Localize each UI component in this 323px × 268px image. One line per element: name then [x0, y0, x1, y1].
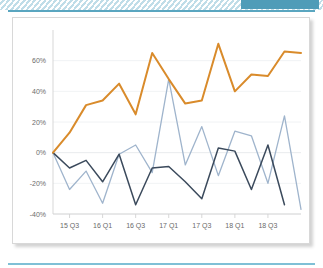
- y-tick-label: 40%: [32, 88, 46, 95]
- y-tick-label: 60%: [32, 57, 46, 64]
- line-chart: -40%-20%0%20%40%60% 15 Q316 Q116 Q317 Q1…: [13, 18, 309, 243]
- y-axis-tick-labels: -40%-20%0%20%40%60%: [30, 57, 46, 217]
- x-tick-label: 16 Q1: [93, 222, 112, 230]
- chart-card: -40%-20%0%20%40%60% 15 Q316 Q116 Q317 Q1…: [12, 17, 310, 244]
- x-axis-tick-labels: 15 Q316 Q116 Q317 Q117 Q318 Q118 Q3: [60, 222, 278, 230]
- decorative-top-band: [0, 0, 323, 10]
- y-tick-label: -40%: [30, 211, 46, 218]
- orange-series: [53, 44, 301, 153]
- x-tick-label: 16 Q3: [126, 222, 145, 230]
- chart-plot-area: -40%-20%0%20%40%60% 15 Q316 Q116 Q317 Q1…: [13, 18, 309, 243]
- data-series: [53, 44, 301, 210]
- y-tick-label: 0%: [36, 149, 46, 156]
- bottom-divider-rule: [8, 263, 315, 265]
- light-blue-series: [53, 79, 301, 209]
- x-tick-label: 18 Q1: [225, 222, 244, 230]
- y-tick-label: 20%: [32, 119, 46, 126]
- x-tick-label: 15 Q3: [60, 222, 79, 230]
- x-tick-label: 17 Q1: [159, 222, 178, 230]
- x-tick-label: 17 Q3: [192, 222, 211, 230]
- teal-header-block: [241, 0, 319, 9]
- top-divider-rule: [8, 10, 315, 12]
- gridlines: [53, 61, 301, 214]
- x-tick-label: 18 Q3: [258, 222, 277, 230]
- y-tick-label: -20%: [30, 180, 46, 187]
